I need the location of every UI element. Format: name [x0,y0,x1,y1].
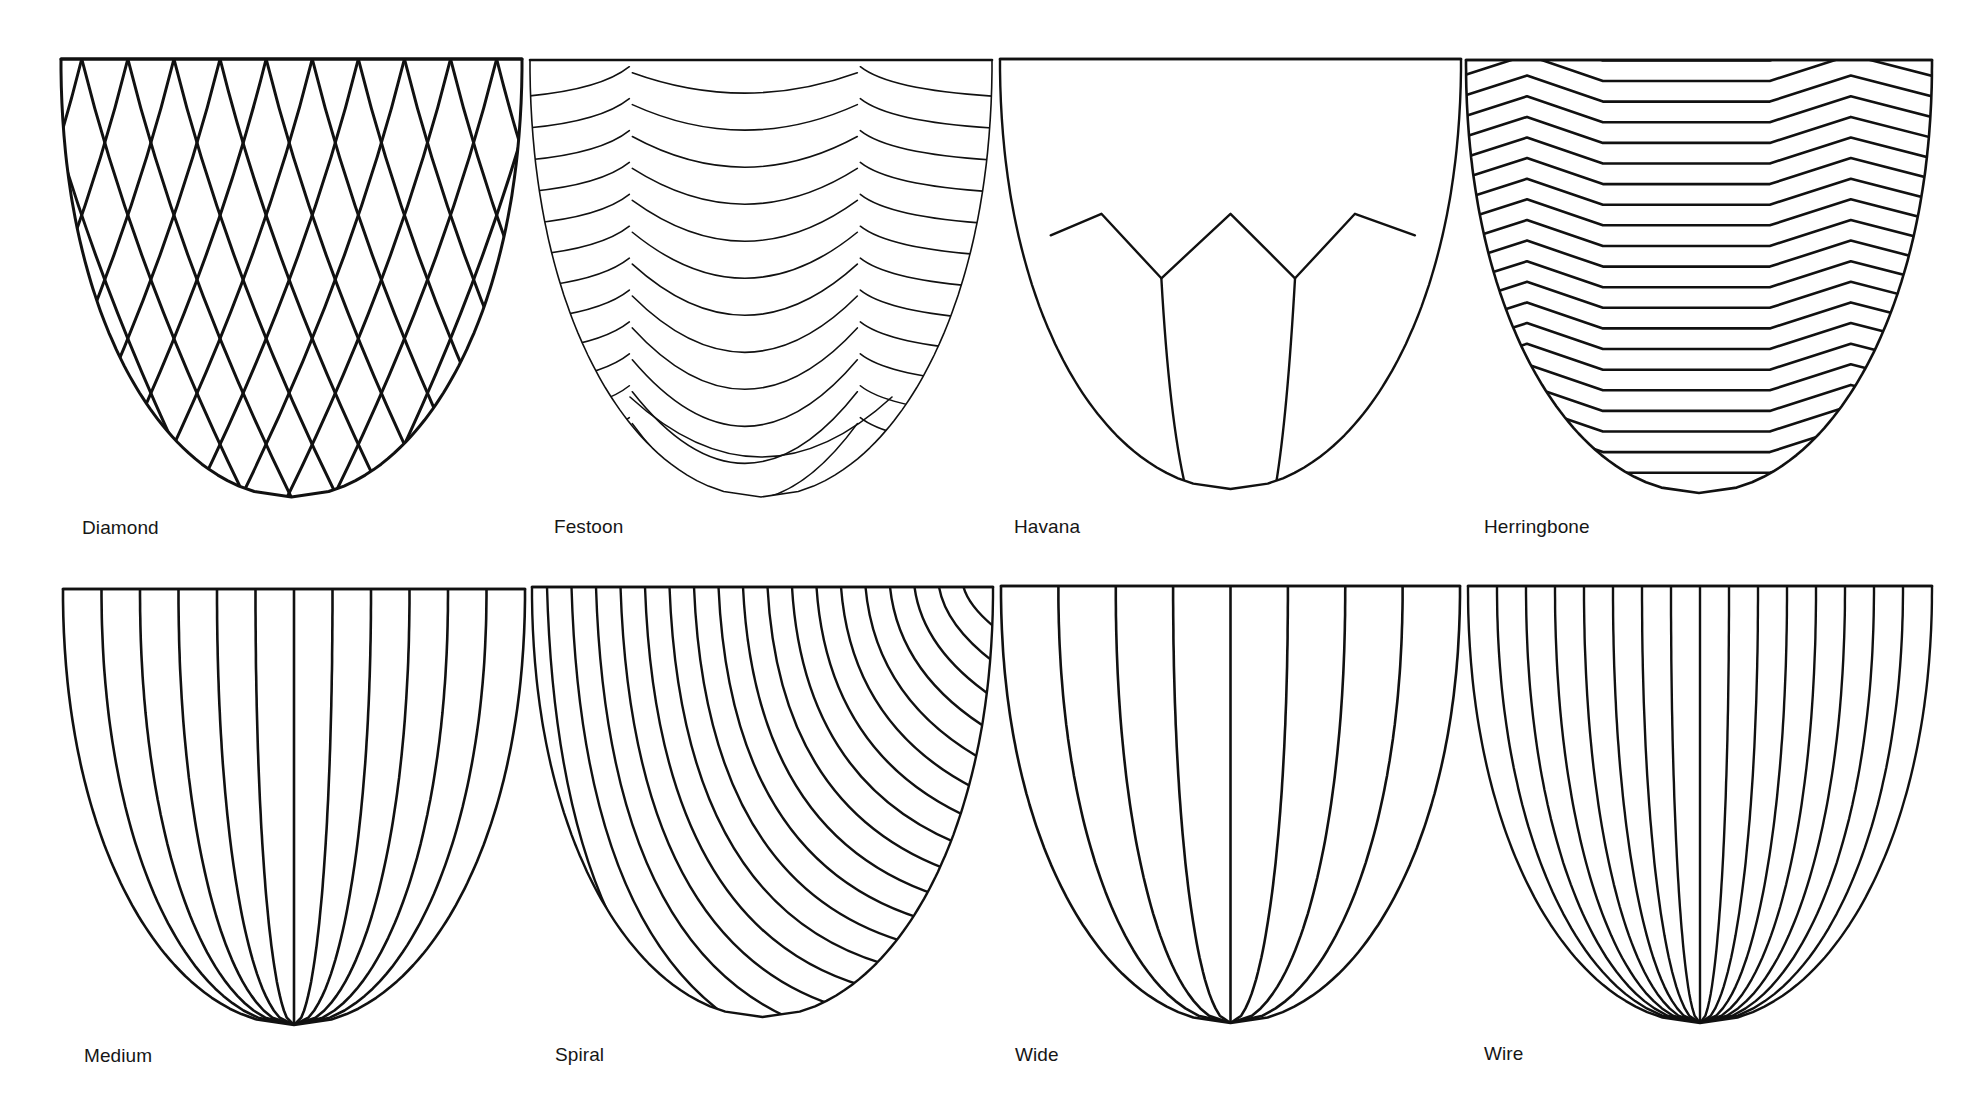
pattern-spiral-bowl [532,587,1104,1077]
label-spiral: Spiral [555,1044,604,1066]
label-festoon: Festoon [554,516,623,538]
pattern-wire-bowl [1468,586,1932,1023]
label-diamond: Diamond [82,517,159,539]
pattern-havana-bowl [1000,59,1461,489]
label-wide: Wide [1015,1044,1059,1066]
label-medium: Medium [84,1045,152,1067]
bowl-outline [530,60,992,497]
label-havana: Havana [1014,516,1080,538]
pattern-festoon-bowl [520,60,1002,500]
label-herringbone: Herringbone [1484,516,1590,538]
lampshade-pattern-figure [0,0,1984,1113]
label-wire: Wire [1484,1043,1523,1065]
pattern-medium-bowl [63,589,525,1025]
pattern-herringbone-bowl [1446,34,1952,493]
bowl-outline [1000,59,1461,489]
bowl-outline [1466,60,1932,493]
bowl-outline [61,59,522,497]
bowl-outline [532,587,993,1017]
pattern-wide-bowl [1001,586,1460,1023]
pattern-diamond-bowl [0,59,1197,557]
